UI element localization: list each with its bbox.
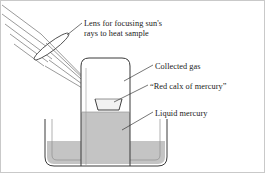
label-lens-line2: rays to heat sample <box>84 29 162 39</box>
jar-mercury-fill <box>81 112 130 164</box>
lens-icon <box>32 30 71 63</box>
calx-dish <box>95 99 122 110</box>
label-lens-for-focusing: Lens for focusing sun's rays to heat sam… <box>84 19 162 40</box>
lens-group <box>32 30 71 63</box>
diagram-figure: Lens for focusing sun's rays to heat sam… <box>0 0 267 175</box>
leader-line-lens <box>67 23 82 35</box>
sun-ray-2 <box>2 14 47 47</box>
label-red-calx-of-mercury: “Red calx of mercury” <box>150 82 226 92</box>
sun-ray-1 <box>2 5 41 34</box>
calx-dish-group <box>95 99 122 110</box>
sun-rays-group <box>2 5 52 66</box>
label-liquid-mercury: Liquid mercury <box>155 109 208 119</box>
bell-jar <box>81 58 130 166</box>
label-lens-line1: Lens for focusing sun's <box>84 19 162 28</box>
label-collected-gas: Collected gas <box>155 62 201 72</box>
